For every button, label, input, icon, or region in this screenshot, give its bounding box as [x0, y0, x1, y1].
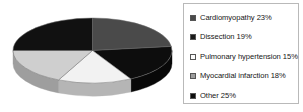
chart-legend: Cardiomyopathy 23% Dissection 19% Pulmon…	[183, 3, 299, 104]
legend-item-myocardial-infarction[interactable]: Myocardial infarction 18%	[184, 67, 298, 87]
legend-swatch-icon	[190, 73, 196, 79]
legend-swatch-icon	[190, 15, 196, 21]
pie-slices	[13, 18, 172, 83]
legend-item-cardiomyopathy[interactable]: Cardiomyopathy 23%	[184, 8, 298, 28]
legend-swatch-icon	[190, 54, 196, 60]
legend-item-dissection[interactable]: Dissection 19%	[184, 28, 298, 48]
pie-chart-graphic	[0, 0, 183, 112]
pie-slice[interactable]	[93, 18, 172, 51]
pie-svg	[0, 0, 183, 112]
legend-item-label: Other 25%	[200, 92, 236, 100]
legend-item-label: Dissection 19%	[200, 33, 252, 41]
legend-swatch-icon	[190, 93, 196, 99]
legend-item-pulmonary-hypertension[interactable]: Pulmonary hypertension 15%	[184, 47, 298, 67]
pie-slice[interactable]	[13, 18, 93, 51]
legend-item-label: Myocardial infarction 18%	[200, 72, 286, 80]
legend-item-label: Cardiomyopathy 23%	[200, 14, 272, 22]
pie-chart-figure: Cardiomyopathy 23% Dissection 19% Pulmon…	[0, 0, 303, 112]
legend-item-other[interactable]: Other 25%	[184, 86, 298, 106]
legend-item-label: Pulmonary hypertension 15%	[200, 53, 298, 61]
legend-swatch-icon	[190, 34, 196, 40]
